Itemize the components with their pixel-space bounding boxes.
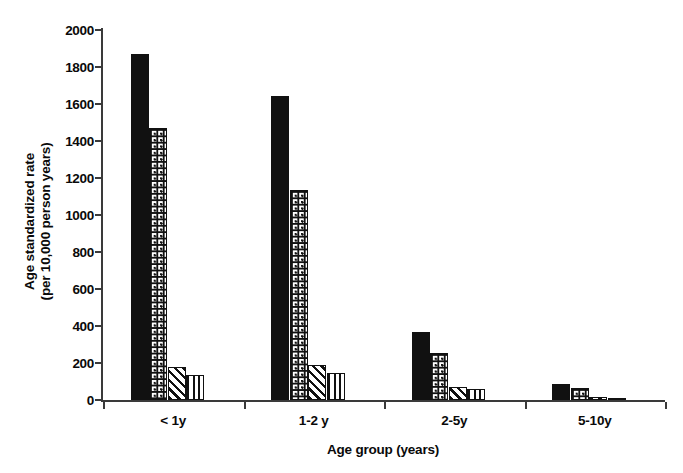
bars-layer (0, 0, 683, 473)
bar-solid-black-5-10y (552, 384, 570, 400)
bar-vertical-stripes-1-2y (327, 373, 345, 400)
bar-vertical-stripes-2-5y (467, 389, 485, 400)
bar-vertical-stripes-5-10y (608, 398, 626, 400)
x-axis-tick-label: 2-5y (441, 413, 467, 428)
x-axis-tick-label: 1-2 y (299, 413, 329, 428)
bar-checkered-dots-<1y (149, 128, 167, 400)
bar-diagonal-stripes-2-5y (449, 387, 467, 400)
bar-diagonal-stripes-<1y (168, 367, 186, 400)
x-axis-tick-label: 5-10y (578, 413, 612, 428)
bar-solid-black-2-5y (412, 332, 430, 400)
bar-diagonal-stripes-1-2y (308, 365, 326, 400)
bar-solid-black-<1y (131, 54, 149, 400)
bar-checkered-dots-2-5y (430, 353, 448, 400)
x-axis-title: Age group (years) (101, 442, 665, 457)
bar-vertical-stripes-<1y (186, 375, 204, 400)
bar-diagonal-stripes-5-10y (589, 397, 607, 400)
bar-checkered-dots-5-10y (571, 388, 589, 400)
x-axis-tick-label: < 1y (160, 413, 186, 428)
bar-checkered-dots-1-2y (290, 190, 308, 400)
bar-solid-black-1-2y (271, 96, 289, 400)
bar-chart: Age standardized rate (per 10,000 person… (0, 0, 683, 473)
